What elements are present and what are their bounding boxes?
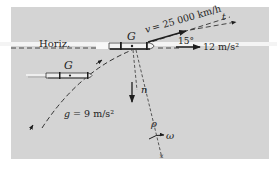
trajectory-arrow-lower xyxy=(30,125,33,130)
rocket-previous xyxy=(26,72,92,79)
normal-label: n xyxy=(141,84,147,95)
horizon-label: Horiz. xyxy=(39,38,70,49)
radius-label: ρ xyxy=(150,118,157,129)
rocket-current xyxy=(96,42,154,50)
tangent-label: t xyxy=(222,12,226,22)
velocity-label: v= 25 000 km/h xyxy=(144,3,223,35)
gravity-label: g = 9 m/s² xyxy=(64,108,114,119)
cg-label-previous: G xyxy=(64,59,73,72)
normal-dashed-line-a xyxy=(133,50,137,90)
angle-label: 15° xyxy=(178,36,194,46)
tangent-direction-arrow xyxy=(190,22,236,30)
rocket-trajectory-diagram: Horiz. t v= 25 000 km/h 15° 12 m/s² G G … xyxy=(0,0,277,180)
thrust-acceleration-label: 12 m/s² xyxy=(203,41,239,52)
trajectory-arrow-upper xyxy=(96,60,102,64)
cg-label-current: G xyxy=(127,30,136,43)
normal-axis-line xyxy=(136,50,162,158)
angular-velocity-arrow xyxy=(149,135,164,139)
omega-label: ω xyxy=(166,130,174,141)
center-of-curvature-mark: × xyxy=(159,152,164,159)
